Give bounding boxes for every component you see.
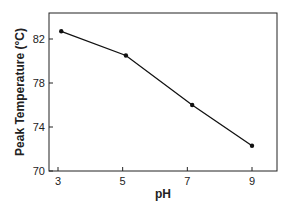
x-tick-label: 3 <box>55 175 61 187</box>
y-axis-title: Peak Temperature (°C) <box>13 28 27 156</box>
y-tick-label: 82 <box>33 33 45 45</box>
y-axis-ticks: 70747882 <box>33 33 53 177</box>
data-line <box>61 31 252 145</box>
x-tick-label: 7 <box>184 175 190 187</box>
data-point <box>124 53 128 57</box>
x-tick-label: 9 <box>249 175 255 187</box>
y-tick-label: 70 <box>33 165 45 177</box>
data-point <box>190 103 194 107</box>
y-tick-label: 74 <box>33 121 45 133</box>
x-axis-title: pH <box>155 187 171 201</box>
x-axis-ticks: 3579 <box>55 167 255 187</box>
y-tick-label: 78 <box>33 77 45 89</box>
data-markers <box>59 29 254 148</box>
data-point <box>59 29 63 33</box>
data-point <box>250 144 254 148</box>
plot-frame <box>49 13 277 171</box>
x-tick-label: 5 <box>120 175 126 187</box>
line-chart: 70747882 3579 pH Peak Temperature (°C) <box>0 0 293 207</box>
